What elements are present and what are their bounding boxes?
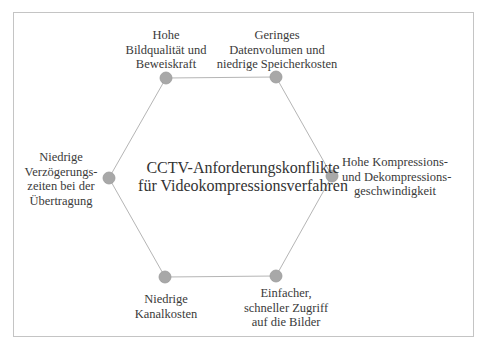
node-bottom-right bbox=[270, 270, 282, 282]
center-title-line2: für Videokompressionsverfahren bbox=[130, 177, 356, 195]
label-line: Hohe bbox=[116, 28, 216, 43]
label-line: Beweiskraft bbox=[116, 57, 216, 72]
edge-top bbox=[166, 77, 276, 78]
label-line: Datenvolumen und bbox=[214, 43, 340, 58]
label-line: und Dekompressions- bbox=[342, 170, 448, 185]
label-line: Kanalkosten bbox=[121, 307, 211, 322]
label-line: Bildqualität und bbox=[116, 43, 216, 58]
node-top-right bbox=[270, 71, 282, 83]
label-line: niedrige Speicherkosten bbox=[214, 57, 340, 72]
label-top-right: Geringes Datenvolumen und niedrige Speic… bbox=[214, 28, 340, 72]
node-bottom-left bbox=[159, 271, 171, 283]
node-top-left bbox=[160, 72, 172, 84]
label-line: Niedrige bbox=[121, 292, 211, 307]
label-line: Geringes bbox=[214, 28, 340, 43]
label-line: zeiten bei der bbox=[20, 179, 102, 194]
label-line: Niedrige bbox=[20, 150, 102, 165]
label-top-left: Hohe Bildqualität und Beweiskraft bbox=[116, 28, 216, 72]
label-bottom-right: Einfacher, schneller Zugriff auf die Bil… bbox=[236, 286, 336, 330]
node-left bbox=[103, 172, 115, 184]
label-line: schneller Zugriff bbox=[236, 301, 336, 316]
label-right: Hohe Kompressions- und Dekompressions- g… bbox=[342, 155, 448, 199]
label-bottom-left: Niedrige Kanalkosten bbox=[121, 292, 211, 321]
label-left: Niedrige Verzögerungs- zeiten bei der Üb… bbox=[20, 150, 102, 208]
center-title: CCTV-Anforderungskonflikte für Videokomp… bbox=[130, 159, 356, 195]
edge-bottom bbox=[165, 276, 276, 277]
label-line: Einfacher, bbox=[236, 286, 336, 301]
label-line: geschwindigkeit bbox=[342, 184, 448, 199]
center-title-line1: CCTV-Anforderungskonflikte bbox=[130, 159, 356, 177]
label-line: Verzögerungs- bbox=[20, 165, 102, 180]
label-line: auf die Bilder bbox=[236, 315, 336, 330]
label-line: Übertragung bbox=[20, 194, 102, 209]
label-line: Hohe Kompressions- bbox=[342, 155, 448, 170]
